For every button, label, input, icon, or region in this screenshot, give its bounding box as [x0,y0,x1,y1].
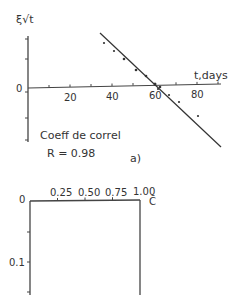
figure: ξ√t 0 20 40 60 80 t,days Coeff de correl… [0,0,242,295]
bottom-x-label-075: 0.75 [105,187,127,198]
data-point [168,94,170,96]
data-point [154,83,157,86]
top-x-label-80: 80 [191,89,204,100]
bottom-chart: 0 0.25 0.50 0.75 1.00 C̄ 0.1 [9,186,156,295]
data-point [123,58,126,61]
data-points [103,42,199,117]
bottom-zero-label: 0 [19,194,25,205]
top-x-axis-label: t,days [194,69,228,82]
data-point [178,101,180,103]
top-y-label: ξ√t [16,13,34,26]
data-point [157,88,159,90]
data-point [135,69,138,72]
data-point [113,50,115,52]
top-chart: ξ√t 0 20 40 60 80 t,days Coeff de correl… [16,13,228,165]
top-x-label-40: 40 [106,91,119,102]
panel-label: a) [130,152,141,165]
top-x-label-20: 20 [64,92,77,103]
data-point [103,42,105,44]
bottom-x-label-025: 0.25 [50,187,72,198]
coeff-label: Coeff de correl [40,129,121,142]
top-x-label-60: 60 [149,90,162,101]
bottom-x-axis-label: C̄ [149,195,156,207]
top-zero-label: 0 [16,83,22,94]
bottom-y-label-01: 0.1 [9,257,25,268]
top-x-axis [28,84,221,88]
data-point [145,75,148,78]
data-point [197,115,199,117]
bottom-x-label-050: 0.50 [78,187,100,198]
r-value-label: R = 0.98 [47,147,95,160]
data-point [159,86,162,89]
